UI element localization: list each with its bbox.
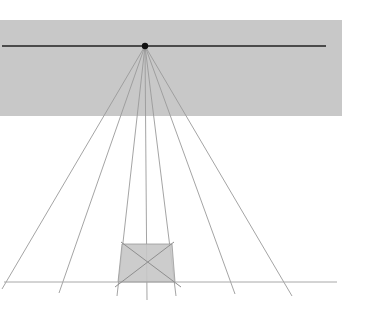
perspective-diagram (0, 0, 365, 323)
vanishing-point (142, 43, 148, 49)
sky-band (0, 20, 342, 116)
